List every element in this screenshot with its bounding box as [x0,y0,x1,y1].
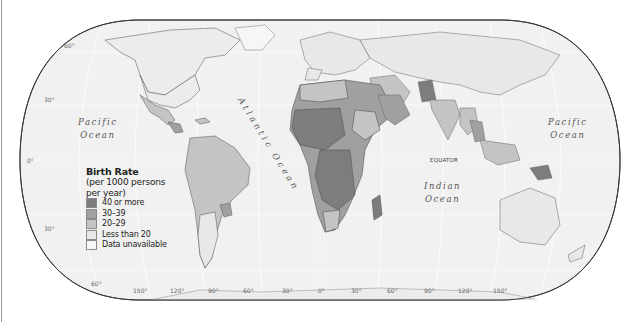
indian-line1: Indian [424,180,461,193]
equator-label: EQUATOR [430,157,458,163]
longitude-label-0: 0° [318,287,325,294]
longitude-label-150e: 150° [493,287,507,294]
legend-swatch-less-than-20 [86,230,97,240]
longitude-label-60w: 60° [243,287,254,294]
latitude-label-60s: 60° [91,280,102,287]
latitude-label-30s: 30° [44,225,55,232]
legend-item: Less than 20 [86,230,196,241]
pacific-east-line1: Pacific [548,116,588,129]
legend-item: Data unavailable [86,240,196,251]
longitude-label-150w: 150° [133,287,147,294]
pacific-ocean-east-label: Pacific Ocean [548,116,588,142]
world-map: Atlantic Ocean [0,0,634,322]
legend-label: Less than 20 [102,230,151,240]
pacific-ocean-west-label: Pacific Ocean [78,116,118,142]
legend-title: Birth Rate [86,166,196,177]
legend-subtitle-line1: (per 1000 persons [86,177,196,188]
longitude-label-90e: 90° [424,287,435,294]
legend-label: 30–39 [102,209,125,219]
legend-swatch-40-or-more [86,198,97,208]
legend: Birth Rate (per 1000 persons per year) 4… [86,166,196,251]
longitude-label-60e: 60° [387,287,398,294]
legend-subtitle-line2: per year) [86,188,196,199]
legend-label: 40 or more [102,198,144,208]
legend-item: 40 or more [86,198,196,209]
indian-ocean-label: Indian Ocean [424,180,461,206]
legend-swatch-20-29 [86,219,97,229]
legend-swatch-data-unavailable [86,240,97,250]
latitude-label-60n: 60° [64,42,75,49]
legend-swatch-30-39 [86,209,97,219]
longitude-label-30e: 30° [351,287,362,294]
legend-item: 30–39 [86,209,196,220]
longitude-label-30w: 30° [282,287,293,294]
longitude-label-90w: 90° [208,287,219,294]
pacific-east-line2: Ocean [548,129,588,142]
longitude-label-120e: 120° [458,287,472,294]
latitude-label-0: 0° [27,157,34,164]
pacific-west-line1: Pacific [78,116,118,129]
longitude-label-120w: 120° [170,287,184,294]
pacific-west-line2: Ocean [78,129,118,142]
legend-label: 20–29 [102,219,125,229]
indian-line2: Ocean [424,193,461,206]
legend-item: 20–29 [86,219,196,230]
legend-label: Data unavailable [102,240,167,250]
latitude-label-30n: 30° [44,96,55,103]
